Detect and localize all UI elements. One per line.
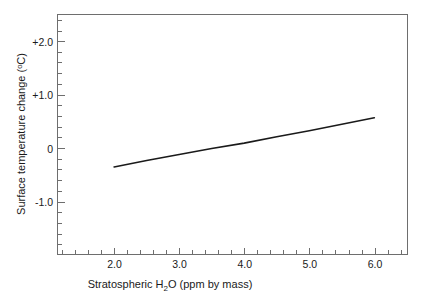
y-tick-label: 0	[47, 143, 53, 155]
x-axis-title-pre: Stratospheric H	[88, 278, 164, 290]
y-axis-title-pre: Surface temperature change (	[15, 68, 27, 214]
chart-figure: +2.0 +1.0 0 -1.0 2.0 3.0 4.0 5.0 6.0 Str…	[0, 0, 429, 297]
x-tick-label: 5.0	[303, 258, 318, 270]
y-tick-label: +2.0	[32, 36, 53, 48]
x-tick-label: 3.0	[172, 258, 187, 270]
y-axis-title: Surface temperature change (oC)	[15, 53, 28, 215]
y-tick-label: +1.0	[32, 89, 53, 101]
y-axis-title-post: C)	[15, 53, 27, 65]
x-tick-label: 4.0	[237, 258, 252, 270]
y-tick-label: -1.0	[35, 196, 53, 208]
x-axis-title-post: O (ppm by mass)	[168, 278, 252, 290]
line-chart: +2.0 +1.0 0 -1.0 2.0 3.0 4.0 5.0 6.0 Str…	[0, 0, 429, 297]
x-tick-label: 6.0	[368, 258, 383, 270]
x-tick-label: 2.0	[107, 258, 122, 270]
